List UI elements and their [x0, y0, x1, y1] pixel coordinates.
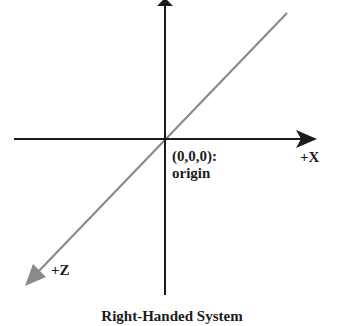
- diagram-caption: Right-Handed System: [0, 308, 344, 325]
- y-axis: [157, 0, 173, 295]
- origin-label: (0,0,0): origin: [172, 148, 217, 182]
- z-axis: [25, 13, 287, 286]
- origin-name-text: origin: [172, 165, 217, 182]
- x-axis-label: +X: [300, 149, 319, 166]
- origin-coords-text: (0,0,0):: [172, 148, 217, 164]
- y-axis-arrowhead-icon: [157, 0, 173, 6]
- z-axis-label: +Z: [51, 262, 70, 279]
